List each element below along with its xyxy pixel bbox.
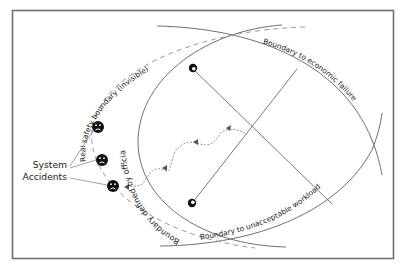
- official-practice-boundary: [138, 25, 286, 247]
- diagonal-line-2: [193, 69, 297, 202]
- economic-failure-text: Boundary to economic failure: [262, 37, 359, 103]
- unacceptable-workload-label: Boundary to unacceptable workload: [199, 182, 322, 242]
- drift-arrow-2: [193, 139, 198, 145]
- real-safety-boundary-label: Real safety boundary (invisible): [78, 64, 150, 162]
- system-accidents-label-line2: Accidents: [23, 171, 68, 182]
- real-safety-boundary-text: Real safety boundary (invisible): [78, 64, 150, 162]
- economic-failure-label: Boundary to economic failure: [262, 37, 359, 103]
- workload-boundary: [160, 113, 382, 246]
- start-marker-icon-bottom: [188, 199, 196, 207]
- sad-face-icon-2: [96, 154, 108, 166]
- safety-boundary-diagram: System Accidents Real safety boundary (i…: [0, 0, 404, 271]
- sad-face-icon-3: [107, 180, 119, 192]
- unacceptable-workload-text: Boundary to unacceptable workload: [199, 182, 322, 242]
- leader-line-3: [70, 178, 107, 185]
- system-accidents-label-line1: System: [33, 159, 67, 170]
- economic-failure-boundary: [157, 26, 382, 175]
- start-marker-icon-top: [189, 64, 197, 72]
- diagonal-line-1: [193, 69, 332, 204]
- drift-arrow-3: [162, 165, 167, 171]
